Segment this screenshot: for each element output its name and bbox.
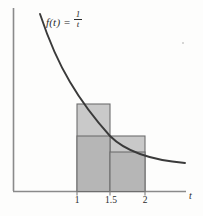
fraction-numerator: 1 xyxy=(74,10,83,19)
page-speck xyxy=(182,42,184,44)
riemann-sum-figure: f(t) = 1 t 1 1.5 2 t xyxy=(0,0,203,216)
x-tick-label-1: 1 xyxy=(70,195,84,205)
function-label-lhs: f(t) = xyxy=(46,16,71,28)
lower-rectangle-1 xyxy=(77,136,110,192)
x-tick-label-1-5: 1.5 xyxy=(101,195,121,205)
fraction-denominator: t xyxy=(74,19,83,29)
lower-rectangle-2 xyxy=(110,152,145,192)
x-tick-label-2: 2 xyxy=(138,195,152,205)
function-label-fraction: 1 t xyxy=(74,10,83,30)
x-axis-label: t xyxy=(189,190,192,201)
plot-canvas xyxy=(0,0,203,216)
function-label: f(t) = 1 t xyxy=(46,11,82,31)
